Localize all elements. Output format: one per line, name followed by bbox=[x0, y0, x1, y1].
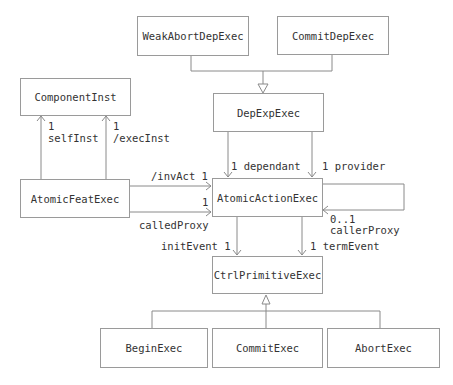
init-event-label: initEvent 1 bbox=[161, 240, 231, 252]
class-dep-exp-exec[interactable]: DepExpExec bbox=[213, 93, 324, 132]
generalization-triangle-icon bbox=[258, 84, 268, 93]
self-inst-multiplicity: 1 bbox=[48, 120, 54, 132]
class-component-inst[interactable]: ComponentInst bbox=[20, 78, 131, 116]
called-proxy-role: calledProxy bbox=[139, 219, 209, 231]
class-abort-exec[interactable]: AbortExec bbox=[327, 328, 440, 368]
class-ctrl-primitive-exec[interactable]: CtrlPrimitiveExec bbox=[212, 256, 323, 294]
class-name: AtomicActionExec bbox=[217, 192, 318, 204]
provider-label: 1 provider bbox=[322, 160, 385, 172]
class-name: BeginExec bbox=[126, 342, 183, 354]
caller-proxy-role: callerProxy bbox=[330, 224, 400, 236]
term-event-label: 1 termEvent bbox=[310, 240, 380, 252]
class-name: AtomicFeatExec bbox=[31, 193, 120, 205]
class-commit-dep-exec[interactable]: CommitDepExec bbox=[277, 16, 389, 55]
self-inst-role: selfInst bbox=[48, 132, 99, 144]
class-name: CommitDepExec bbox=[292, 30, 374, 42]
class-atomic-action-exec[interactable]: AtomicActionExec bbox=[212, 178, 323, 217]
exec-inst-multiplicity: 1 bbox=[113, 120, 119, 132]
class-begin-exec[interactable]: BeginExec bbox=[100, 328, 208, 368]
class-commit-exec[interactable]: CommitExec bbox=[212, 328, 323, 368]
called-proxy-multiplicity: 1 bbox=[202, 196, 208, 208]
dep-generalization-bus bbox=[191, 54, 332, 71]
inv-act-label: /invAct 1 bbox=[151, 170, 208, 182]
class-atomic-feat-exec[interactable]: AtomicFeatExec bbox=[20, 179, 130, 218]
exec-inst-role: /execInst bbox=[113, 132, 170, 144]
class-weak-abort-dep-exec[interactable]: WeakAbortDepExec bbox=[137, 16, 249, 56]
class-name: CommitExec bbox=[236, 342, 299, 354]
dependant-label: 1 dependant bbox=[231, 160, 301, 172]
caller-proxy-loop bbox=[322, 184, 404, 210]
class-name: DepExpExec bbox=[237, 107, 300, 119]
class-name: CtrlPrimitiveExec bbox=[214, 269, 321, 281]
generalization-triangle-icon bbox=[262, 295, 270, 304]
class-name: ComponentInst bbox=[34, 91, 116, 103]
class-name: AbortExec bbox=[355, 342, 412, 354]
class-name: WeakAbortDepExec bbox=[142, 30, 243, 42]
